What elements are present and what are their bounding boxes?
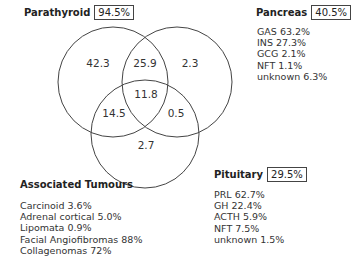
list-item: NFT 1.1% — [257, 60, 327, 71]
pituitary-header: Pituitary 29.5% — [214, 167, 307, 182]
parathyroid-header: Parathyroid 94.5% — [24, 5, 134, 20]
region-parathyroid-only: 42.3 — [86, 57, 109, 69]
list-item: Adrenal cortical 5.0% — [20, 211, 142, 222]
list-item: GCG 2.1% — [257, 48, 327, 59]
list-item: GAS 63.2% — [257, 26, 327, 37]
parathyroid-label: Parathyroid — [24, 7, 90, 18]
pancreas-header: Pancreas 40.5% — [256, 5, 351, 20]
pituitary-label: Pituitary — [214, 169, 263, 180]
list-item: GH 22.4% — [214, 200, 284, 211]
list-item: unknown 6.3% — [257, 71, 327, 82]
region-pancreas-only: 2.3 — [182, 57, 199, 69]
region-all-three: 11.8 — [134, 88, 157, 100]
pituitary-breakdown-list: PRL 62.7% GH 22.4% ACTH 5.9% NFT 7.5% un… — [214, 189, 284, 245]
associated-tumours-title: Associated Tumours — [20, 179, 133, 190]
list-item: Facial Angiofibromas 88% — [20, 234, 142, 245]
parathyroid-percent-box: 94.5% — [94, 5, 134, 20]
associated-tumours-label: Associated Tumours — [20, 179, 133, 190]
parathyroid-circle — [58, 27, 168, 137]
list-item: PRL 62.7% — [214, 189, 284, 200]
list-item: INS 27.3% — [257, 37, 327, 48]
list-item: Collagenomas 72% — [20, 245, 142, 256]
list-item: NFT 7.5% — [214, 223, 284, 234]
list-item: Carcinoid 3.6% — [20, 200, 142, 211]
pancreas-percent-box: 40.5% — [311, 5, 351, 20]
pancreas-circle — [122, 27, 232, 137]
pancreas-label: Pancreas — [256, 7, 307, 18]
list-item: unknown 1.5% — [214, 234, 284, 245]
list-item: Lipomata 0.9% — [20, 222, 142, 233]
region-parathyroid-pancreas: 25.9 — [133, 57, 156, 69]
list-item: ACTH 5.9% — [214, 211, 284, 222]
region-pituitary-only: 2.7 — [138, 139, 155, 151]
pituitary-percent-box: 29.5% — [267, 167, 307, 182]
region-pancreas-pituitary: 0.5 — [168, 107, 185, 119]
associated-tumours-list: Carcinoid 3.6% Adrenal cortical 5.0% Lip… — [20, 200, 142, 256]
region-parathyroid-pituitary: 14.5 — [102, 107, 125, 119]
pancreas-breakdown-list: GAS 63.2% INS 27.3% GCG 2.1% NFT 1.1% un… — [257, 26, 327, 82]
